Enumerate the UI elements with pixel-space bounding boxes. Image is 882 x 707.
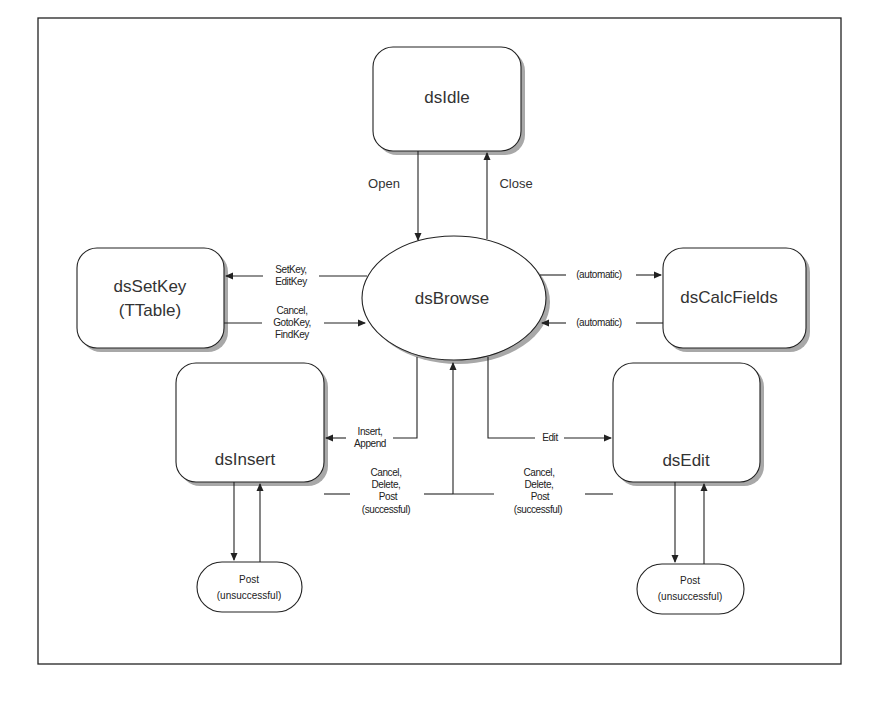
edge-label-line1: Cancel, (370, 467, 401, 478)
edge-to-insert: Insert, Append (326, 357, 417, 449)
node-label: dsEdit (662, 451, 710, 470)
node-label: dsBrowse (415, 289, 490, 308)
edge-label-line2: EditKey (275, 276, 307, 287)
edge-label-line3: FindKey (275, 329, 309, 340)
edge-label: (automatic) (576, 317, 622, 328)
node-label-line1: dsSetKey (114, 277, 187, 296)
edge-from-edit: Cancel, Delete, Post (successful) (453, 467, 613, 515)
node-box (77, 248, 224, 348)
edge-label-line2: GotoKey, (273, 317, 311, 328)
edge-open: Open (368, 151, 418, 240)
node-label-line2: (unsuccessful) (658, 591, 722, 602)
edge-to-calcfields: (automatic) (540, 269, 661, 280)
edge-close: Close (487, 153, 533, 239)
node-dsedit: dsEdit (613, 363, 764, 486)
node-post-unsuccessful-edit: Post (unsuccessful) (637, 564, 744, 614)
node-label-line1: Post (680, 575, 700, 586)
node-label-visible: dsInsert (215, 450, 276, 469)
node-label-line1: Post (239, 574, 259, 585)
edge-label-line4: (successful) (362, 504, 411, 515)
edge-from-insert: Cancel, Delete, Post (successful) (324, 467, 453, 515)
edge-to-setkey: SetKey, EditKey (226, 264, 367, 287)
node-label: dsCalcFields (680, 288, 777, 307)
node-label-line2: (TTable) (119, 301, 181, 320)
edge-label-line1: SetKey, (275, 264, 306, 275)
edge-label: Close (499, 176, 532, 191)
edge-label-line1: Cancel, (523, 467, 554, 478)
edge-label-line1: Cancel, (276, 305, 307, 316)
edge-label: Edit (542, 432, 558, 443)
edge-from-calcfields: (automatic) (542, 317, 663, 328)
edge-label-line2: Delete, (372, 479, 401, 490)
node-dssetkey: dsSetKey (TTable) (77, 248, 228, 352)
node-post-unsuccessful-insert: Post (unsuccessful) (197, 562, 302, 612)
node-label-line2: (unsuccessful) (217, 590, 281, 601)
edge-label-line3: Post (531, 491, 550, 502)
node-dsbrowse: dsBrowse (362, 236, 550, 364)
edge-label: (automatic) (576, 269, 622, 280)
edge-label-line3: Post (379, 491, 398, 502)
node-pill (197, 562, 302, 612)
edge-line (488, 357, 535, 438)
edge-to-edit: Edit (488, 357, 611, 443)
edge-label-line1: Insert, (358, 426, 383, 437)
node-pill (637, 564, 744, 614)
state-diagram: dsIdle dsBrowse dsSetKey (TTable) dsCalc… (0, 0, 882, 707)
edge-edit-post-loop (675, 482, 704, 564)
edge-label: Open (368, 176, 400, 191)
edge-from-setkey: Cancel, GotoKey, FindKey (224, 305, 365, 340)
node-dscalcfields: dsCalcFields (663, 248, 810, 352)
edge-label-line2: Append (354, 438, 386, 449)
node-dsinsert: dsInsert dsInsert (176, 363, 328, 486)
edge-insert-post-loop (234, 482, 260, 562)
node-label: dsIdle (424, 88, 469, 107)
edge-label-line4: (successful) (514, 504, 563, 515)
edge-line (393, 357, 417, 438)
edge-label-line2: Delete, (525, 479, 554, 490)
node-dsidle: dsIdle (373, 47, 525, 155)
